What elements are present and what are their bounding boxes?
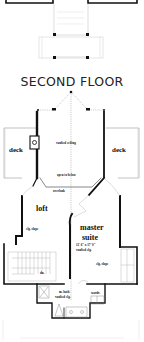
stairs	[8, 252, 56, 281]
room-label-loft: loft	[36, 205, 48, 213]
room-label-m-bath-1: m. bath	[59, 291, 69, 294]
floor-title: SECOND FLOOR	[0, 74, 144, 89]
note-clg-slope-master: clg. slope	[96, 263, 108, 266]
note-stairs-down: dn.	[40, 272, 44, 275]
closet-shelves	[121, 249, 134, 282]
room-label-deck-left: deck	[9, 147, 23, 154]
note-overlook: overlook	[53, 190, 65, 193]
floor-plan: SECOND FLOOR deck deck vaulted ceiling o…	[0, 0, 144, 342]
note-clg-slope-loft: clg. slope	[26, 228, 38, 231]
note-open-to-below: open to below	[57, 174, 76, 177]
room-label-deck-right: deck	[112, 147, 126, 154]
master-suite-ceiling: vaulted clg.	[76, 249, 92, 252]
master-suite-dimensions: 11' 6" x 17' 0"	[76, 244, 95, 247]
first-floor-remnant	[6, 0, 137, 58]
note-wardrobe: wardr.	[91, 292, 100, 295]
room-label-master-1: master	[80, 224, 104, 232]
room-label-m-bath-2: vaulted clg.	[55, 296, 71, 299]
note-vaulted-ceiling: vaulted ceiling	[56, 142, 76, 145]
floor-plan-drawing	[0, 0, 144, 342]
room-label-master-2: suite	[82, 234, 98, 242]
fireplace	[30, 136, 39, 149]
